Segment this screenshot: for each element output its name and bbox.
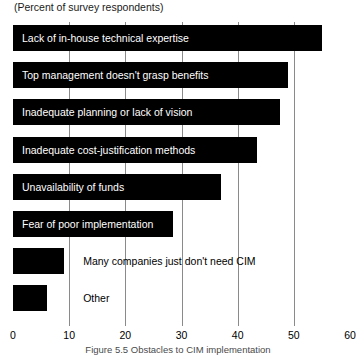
- plot-area: Lack of in-house technical expertiseTop …: [13, 22, 350, 319]
- axis-tick-label: 30: [176, 329, 188, 342]
- x-axis-ticks: [13, 319, 350, 327]
- bar-label: Top management doesn't grasp benefits: [22, 62, 208, 88]
- axis-tick-label: 10: [63, 329, 75, 342]
- bar-row: Inadequate planning or lack of vision: [13, 99, 350, 125]
- bar-row: Inadequate cost-justification methods: [13, 137, 350, 163]
- bar-row: Other: [13, 285, 350, 311]
- figure-caption: Figure 5.5 Obstacles to CIM implementati…: [0, 344, 356, 356]
- bar-label: Fear of poor implementation: [22, 211, 153, 237]
- bar-row: Top management doesn't grasp benefits: [13, 62, 350, 88]
- axis-tick-label: 60: [344, 329, 356, 342]
- axis-tick-label: 0: [10, 329, 16, 342]
- bar-label: Other: [83, 285, 109, 311]
- bar[interactable]: [13, 248, 64, 274]
- bar-row: Fear of poor implementation: [13, 211, 350, 237]
- bar-label: Inadequate planning or lack of vision: [22, 99, 192, 125]
- bar-label: Unavailability of funds: [22, 174, 124, 200]
- x-axis-tick-labels: 0102030405060: [0, 329, 356, 343]
- axis-tick: [69, 319, 70, 326]
- axis-tick-label: 40: [232, 329, 244, 342]
- axis-tick: [294, 319, 295, 326]
- axis-tick: [238, 319, 239, 326]
- axis-tick-label: 20: [119, 329, 131, 342]
- bar-row: Many companies just don't need CIM: [13, 248, 350, 274]
- bar-label: Inadequate cost-justification methods: [22, 137, 195, 163]
- bar-label: Many companies just don't need CIM: [83, 248, 255, 274]
- axis-tick: [125, 319, 126, 326]
- axis-tick: [182, 319, 183, 326]
- bar[interactable]: [13, 285, 47, 311]
- bar-row: Lack of in-house technical expertise: [13, 25, 350, 51]
- axis-tick-label: 50: [288, 329, 300, 342]
- bar-label: Lack of in-house technical expertise: [22, 25, 189, 51]
- bar-row: Unavailability of funds: [13, 174, 350, 200]
- chart-subtitle: (Percent of survey respondents): [14, 1, 163, 14]
